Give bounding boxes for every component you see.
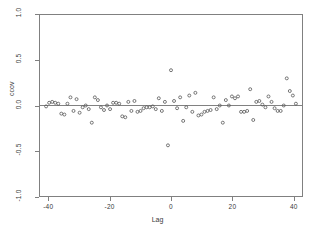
- data-point: [139, 109, 142, 112]
- data-point: [249, 88, 252, 91]
- data-point: [176, 107, 179, 110]
- data-point: [121, 115, 124, 118]
- data-point: [233, 97, 236, 100]
- data-point: [273, 107, 276, 110]
- data-point: [237, 95, 240, 98]
- y-tick-mark: [35, 14, 39, 15]
- data-point: [90, 121, 93, 124]
- data-point: [124, 116, 127, 119]
- data-point: [63, 113, 66, 116]
- data-point: [130, 109, 133, 112]
- data-point: [96, 99, 99, 102]
- data-point: [136, 110, 139, 113]
- x-tick-mark: [232, 197, 233, 201]
- y-tick-mark: [35, 197, 39, 198]
- data-point: [102, 109, 105, 112]
- y-tick-label: -0.5: [15, 137, 22, 163]
- data-point: [170, 69, 173, 72]
- data-point: [78, 111, 81, 114]
- x-axis-title: Lag: [0, 216, 315, 223]
- x-tick-mark: [171, 197, 172, 201]
- data-point: [99, 106, 102, 109]
- chart-root: -1.0-0.50.00.51.0 -40-2002040 ccov Lag: [0, 0, 315, 237]
- data-point: [200, 113, 203, 116]
- data-point: [240, 110, 243, 113]
- data-point: [173, 99, 176, 102]
- data-point: [276, 109, 279, 112]
- scatter-plot-area: [40, 15, 302, 196]
- data-point: [127, 100, 130, 103]
- data-point: [291, 94, 294, 97]
- data-point: [75, 98, 78, 101]
- data-point: [51, 100, 54, 103]
- data-point: [154, 108, 157, 111]
- data-point: [194, 91, 197, 94]
- data-point: [246, 109, 249, 112]
- y-tick-mark: [35, 151, 39, 152]
- data-point: [230, 95, 233, 98]
- data-point: [157, 97, 160, 100]
- data-point: [221, 121, 224, 124]
- data-point: [258, 99, 261, 102]
- data-point: [160, 109, 163, 112]
- data-point: [264, 106, 267, 109]
- data-point: [179, 96, 182, 99]
- data-point: [197, 114, 200, 117]
- data-point: [60, 112, 63, 115]
- x-tick-label: -40: [33, 203, 63, 210]
- data-point: [66, 102, 69, 105]
- data-point: [270, 100, 273, 103]
- x-tick-mark: [48, 197, 49, 201]
- data-point: [115, 101, 118, 104]
- data-point: [224, 99, 227, 102]
- data-point: [294, 102, 297, 105]
- data-point: [267, 95, 270, 98]
- data-point: [288, 90, 291, 93]
- x-tick-mark: [110, 197, 111, 201]
- y-tick-label: -1.0: [15, 183, 22, 209]
- data-point: [185, 106, 188, 109]
- data-point: [142, 107, 145, 110]
- data-point: [188, 94, 191, 97]
- x-tick-mark: [294, 197, 295, 201]
- data-point: [252, 118, 255, 121]
- data-point: [54, 101, 57, 104]
- data-point: [255, 100, 258, 103]
- data-point: [203, 110, 206, 113]
- x-tick-label: 20: [217, 203, 247, 210]
- y-tick-mark: [35, 60, 39, 61]
- data-point: [209, 109, 212, 112]
- data-point: [81, 106, 84, 109]
- data-point: [72, 109, 75, 112]
- data-point: [215, 108, 218, 111]
- data-point: [163, 100, 166, 103]
- data-point: [212, 96, 215, 99]
- data-point: [69, 96, 72, 99]
- y-tick-label: 0.5: [15, 45, 22, 71]
- data-point: [279, 109, 282, 112]
- data-point: [191, 110, 194, 113]
- data-point: [133, 99, 136, 102]
- data-point: [48, 101, 51, 104]
- y-axis-title: ccov: [8, 82, 15, 96]
- x-tick-label: -20: [95, 203, 125, 210]
- data-point: [148, 106, 151, 109]
- data-point: [112, 101, 115, 104]
- plot-frame: [39, 14, 303, 197]
- data-point: [87, 108, 90, 111]
- data-point: [109, 108, 112, 111]
- data-point: [57, 102, 60, 105]
- x-tick-label: 0: [156, 203, 186, 210]
- data-point: [93, 96, 96, 99]
- data-point: [285, 77, 288, 80]
- y-tick-label: 1.0: [15, 0, 22, 26]
- data-point: [118, 102, 121, 105]
- x-tick-label: 40: [279, 203, 309, 210]
- data-point: [145, 106, 148, 109]
- data-point: [166, 144, 169, 147]
- data-point: [206, 109, 209, 112]
- data-point: [243, 110, 246, 113]
- data-point: [182, 119, 185, 122]
- y-tick-label: 0.0: [15, 91, 22, 117]
- y-tick-mark: [35, 106, 39, 107]
